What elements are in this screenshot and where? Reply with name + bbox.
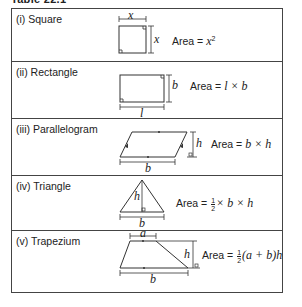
row-parallelogram: (iii) Parallelogram h b Area = b × h — [12, 119, 282, 176]
dim-side: h — [196, 136, 202, 151]
row-trapezium: (v) Trapezium a h b Area = 12(a + b)h — [12, 231, 282, 294]
area-formula: Area = 12× b × h — [176, 196, 253, 212]
area-formula: Area = x2 — [172, 34, 215, 49]
dim-top: x — [128, 8, 133, 23]
area-formula: Area = 12(a + b)h — [202, 248, 282, 264]
row-rectangle: (ii) Rectangle b l Area = l × b — [12, 62, 282, 119]
area-formula: Area = b × h — [211, 137, 271, 152]
dim-bottom: b — [150, 272, 156, 287]
dim-side: x — [154, 32, 159, 47]
row-triangle: (iv) Triangle h b Area = 12× b × h — [12, 176, 282, 231]
dim-height: h — [134, 189, 140, 204]
square-diagram — [12, 9, 284, 62]
dim-bottom: b — [145, 161, 151, 176]
table-caption: Table 22.1 — [11, 0, 66, 5]
area-formula-table: (i) Square x x Area = x2 (ii) Rectangle — [11, 8, 283, 293]
dim-top: a — [140, 226, 146, 241]
dim-side: h — [184, 247, 190, 262]
dim-side: b — [172, 78, 178, 93]
area-formula: Area = l × b — [190, 79, 248, 94]
row-square: (i) Square x x Area = x2 — [12, 9, 282, 62]
